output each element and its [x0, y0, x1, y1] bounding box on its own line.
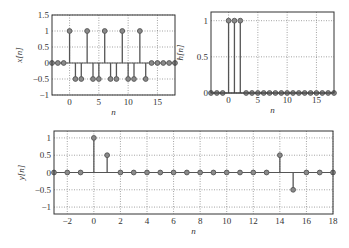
stem-marker	[137, 29, 142, 34]
x-axis-label: n	[111, 107, 116, 117]
y-tick-label: 0	[45, 58, 50, 68]
stem-marker	[232, 18, 237, 23]
y-tick-label: −0.5	[35, 185, 52, 195]
stem-marker	[158, 170, 163, 175]
x-tick-label: 10	[222, 216, 232, 226]
stem-marker	[277, 153, 282, 158]
y-tick-label: 0	[204, 88, 209, 98]
stem-marker	[108, 77, 113, 82]
y-tick-label: 0.5	[40, 150, 52, 160]
x-tick-label: 8	[198, 216, 203, 226]
stem-marker	[78, 170, 83, 175]
stem-marker	[61, 61, 66, 66]
x-tick-label: 0	[226, 95, 231, 105]
x-tick-label: 12	[249, 216, 258, 226]
stem-marker	[238, 18, 243, 23]
stem-marker	[198, 170, 203, 175]
plot-y: −2024681012141618−1−0.500.51ny[n]	[16, 131, 338, 236]
x-tick-label: 14	[275, 216, 285, 226]
stem-marker	[67, 29, 72, 34]
x-axis-label: n	[270, 105, 275, 115]
x-tick-label: 6	[171, 216, 176, 226]
stem-marker	[171, 170, 176, 175]
stem-marker	[224, 170, 229, 175]
stem-marker	[73, 77, 78, 82]
grid-lines	[52, 15, 175, 95]
y-tick-label: −1	[39, 90, 49, 100]
stem-marker	[126, 77, 131, 82]
x-tick-label: 0	[92, 216, 97, 226]
stem-series	[50, 29, 178, 82]
x-tick-label: 10	[283, 95, 293, 105]
x-tick-label: 5	[256, 95, 261, 105]
stem-marker	[118, 170, 123, 175]
stem-marker	[85, 29, 90, 34]
y-tick-label: 0.5	[38, 42, 50, 52]
stem-marker	[211, 170, 216, 175]
x-tick-label: 15	[153, 97, 163, 107]
stem-marker	[91, 77, 96, 82]
stem-marker	[184, 170, 189, 175]
x-tick-label: 2	[118, 216, 123, 226]
x-tick-label: −2	[62, 216, 72, 226]
stem-series	[52, 136, 336, 193]
x-tick-label: 10	[124, 97, 134, 107]
y-tick-label: −1	[41, 202, 51, 212]
y-tick-label: 1	[204, 16, 209, 26]
stem-marker	[161, 61, 166, 66]
stem-marker	[317, 170, 322, 175]
y-tick-label: 1	[47, 133, 52, 143]
stem-marker	[102, 29, 107, 34]
x-tick-label: 5	[97, 97, 102, 107]
y-tick-label: 1	[45, 26, 50, 36]
y-tick-label: 0.5	[197, 52, 209, 62]
y-tick-label: −0.5	[33, 74, 50, 84]
y-tick-label: 0	[47, 168, 52, 178]
plot-x: 051015−1−0.500.511.5nx[n]	[14, 10, 177, 117]
stem-series	[209, 18, 337, 95]
axes-box	[211, 12, 334, 93]
stem-marker	[96, 77, 101, 82]
stem-marker	[132, 77, 137, 82]
y-axis-label: h[n]	[175, 44, 185, 61]
stem-marker	[91, 136, 96, 141]
axes-box	[52, 15, 175, 95]
stem-marker	[226, 18, 231, 23]
stem-marker	[79, 77, 84, 82]
plot-h: 05101500.51nh[n]	[175, 12, 336, 115]
x-tick-label: 16	[302, 216, 312, 226]
stem-marker	[114, 77, 119, 82]
stem-marker	[105, 153, 110, 158]
stem-marker	[131, 170, 136, 175]
grid-lines	[211, 12, 334, 93]
x-tick-label: 0	[67, 97, 72, 107]
stem-marker	[251, 170, 256, 175]
x-tick-label: 18	[329, 216, 339, 226]
figure: 051015−1−0.500.511.5nx[n]05101500.51nh[n…	[0, 0, 349, 248]
stem-marker	[264, 170, 269, 175]
stem-marker	[167, 61, 172, 66]
y-axis-label: y[n]	[16, 164, 26, 181]
x-axis-label: n	[191, 226, 196, 236]
y-axis-label: x[n]	[14, 47, 24, 64]
stem-marker	[238, 170, 243, 175]
stem-marker	[304, 170, 309, 175]
stem-marker	[291, 187, 296, 192]
stem-marker	[120, 29, 125, 34]
x-tick-label: 15	[312, 95, 322, 105]
stem-marker	[143, 77, 148, 82]
stem-marker	[65, 170, 70, 175]
stem-marker	[155, 61, 160, 66]
stem-marker	[145, 170, 150, 175]
y-tick-label: 1.5	[38, 10, 50, 20]
stem-marker	[149, 61, 154, 66]
x-tick-label: 4	[145, 216, 150, 226]
stem-marker	[55, 61, 60, 66]
